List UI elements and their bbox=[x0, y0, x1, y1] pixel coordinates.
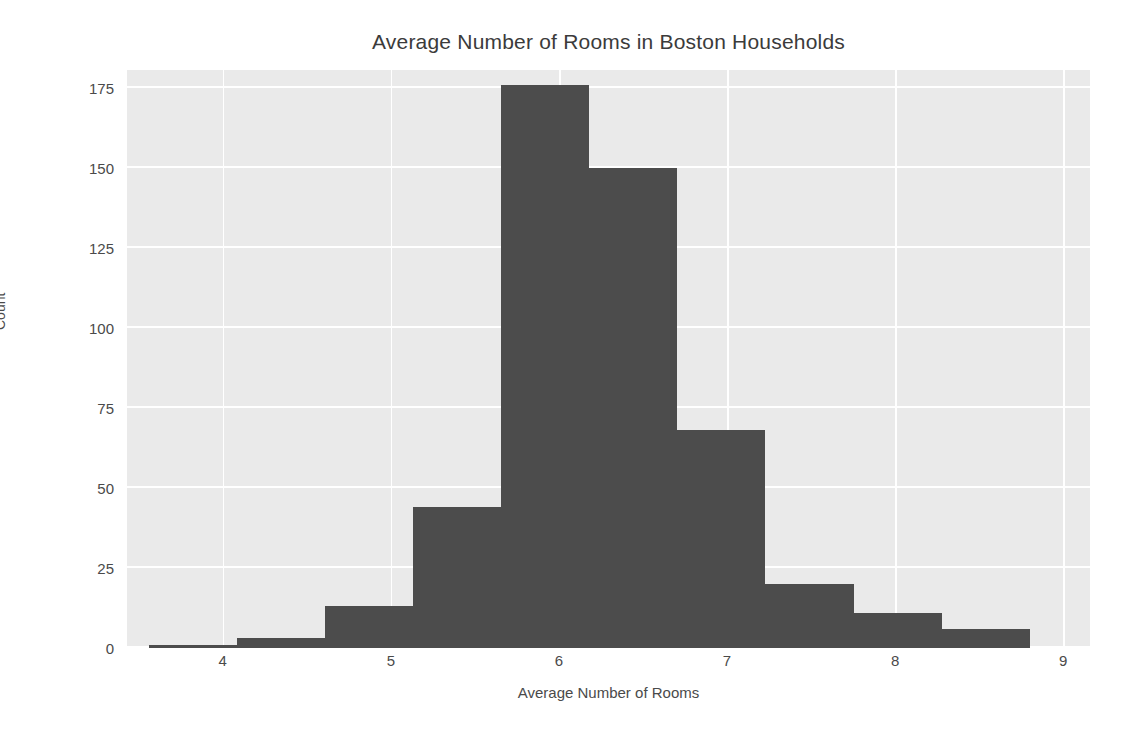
x-tick-label: 7 bbox=[723, 652, 731, 669]
y-tick-label: 0 bbox=[54, 640, 114, 657]
y-tick-label: 125 bbox=[54, 239, 114, 256]
y-tick-label: 75 bbox=[54, 399, 114, 416]
histogram-bar bbox=[237, 638, 325, 648]
gridline-vertical bbox=[223, 70, 225, 648]
histogram-bar bbox=[677, 430, 765, 648]
y-axis-label: Count bbox=[0, 293, 8, 330]
x-axis-label: Average Number of Rooms bbox=[127, 684, 1090, 701]
y-tick-label: 150 bbox=[54, 159, 114, 176]
x-tick-label: 8 bbox=[891, 652, 899, 669]
y-tick-label: 100 bbox=[54, 319, 114, 336]
histogram-bar bbox=[765, 584, 853, 648]
histogram-bar bbox=[854, 613, 942, 648]
plot-area bbox=[127, 70, 1090, 648]
histogram-bar bbox=[501, 85, 589, 648]
y-tick-label: 175 bbox=[54, 79, 114, 96]
y-axis-ticks: 0255075100125150175 bbox=[52, 70, 114, 648]
gridline-horizontal bbox=[127, 86, 1090, 88]
chart-title: Average Number of Rooms in Boston Househ… bbox=[127, 30, 1090, 54]
histogram-bar bbox=[589, 168, 677, 648]
histogram-bar bbox=[325, 606, 413, 648]
y-tick-label: 25 bbox=[54, 559, 114, 576]
gridline-vertical bbox=[1063, 70, 1065, 648]
x-tick-label: 9 bbox=[1059, 652, 1067, 669]
gridline-vertical bbox=[895, 70, 897, 648]
x-tick-label: 4 bbox=[219, 652, 227, 669]
histogram-bar bbox=[149, 645, 237, 648]
x-tick-label: 5 bbox=[387, 652, 395, 669]
gridline-vertical bbox=[391, 70, 393, 648]
histogram-figure: Average Number of Rooms in Boston Househ… bbox=[0, 0, 1144, 748]
x-tick-label: 6 bbox=[555, 652, 563, 669]
x-axis-ticks: 456789 bbox=[127, 652, 1090, 682]
histogram-bar bbox=[942, 629, 1030, 648]
y-tick-label: 50 bbox=[54, 479, 114, 496]
histogram-bar bbox=[413, 507, 501, 648]
